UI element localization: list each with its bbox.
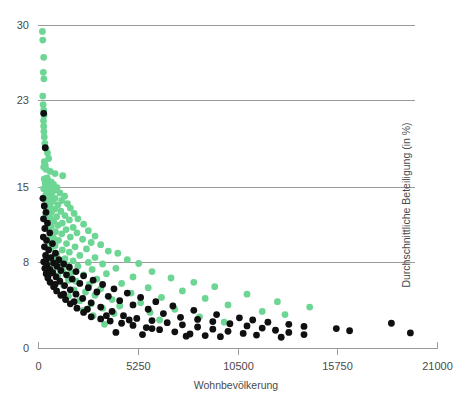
data-point — [97, 241, 104, 248]
data-point — [202, 295, 209, 302]
data-point — [74, 305, 81, 312]
data-point — [39, 93, 46, 100]
data-point — [73, 268, 80, 275]
data-point — [43, 237, 50, 244]
data-point — [74, 229, 81, 236]
data-point — [57, 267, 64, 274]
data-point — [259, 325, 266, 332]
plot-canvas: 0815233005250105001575021000 — [0, 0, 467, 416]
data-point — [69, 276, 76, 283]
data-point — [278, 334, 285, 341]
data-point — [114, 250, 121, 257]
data-point — [61, 282, 68, 289]
data-point — [43, 209, 50, 216]
data-point — [179, 288, 186, 295]
data-point — [66, 249, 73, 256]
data-point — [133, 315, 140, 322]
data-point — [58, 230, 65, 237]
data-point — [282, 311, 289, 318]
data-point — [79, 236, 86, 243]
data-point — [194, 316, 201, 323]
data-point — [55, 222, 62, 229]
data-point — [135, 260, 142, 267]
data-point — [149, 317, 156, 324]
data-point — [225, 302, 232, 309]
data-point — [83, 246, 90, 253]
data-point — [170, 303, 177, 310]
data-point — [70, 257, 77, 264]
data-point — [60, 291, 67, 298]
data-point — [137, 294, 144, 301]
data-point — [80, 221, 87, 228]
data-point — [99, 281, 106, 288]
data-point — [164, 319, 171, 326]
data-point — [79, 295, 86, 302]
y-tick-label: 15 — [17, 181, 29, 193]
data-point — [209, 326, 216, 333]
data-point — [105, 293, 112, 300]
data-point — [40, 69, 47, 76]
data-point — [149, 325, 156, 332]
data-point — [46, 270, 53, 277]
data-point — [253, 332, 260, 339]
data-point — [73, 291, 80, 298]
data-point — [285, 321, 292, 328]
data-point — [139, 331, 146, 338]
data-point — [52, 281, 59, 288]
data-point — [217, 333, 224, 340]
data-point — [149, 268, 156, 275]
data-point — [63, 240, 70, 247]
data-point — [194, 324, 201, 331]
data-point — [49, 240, 56, 247]
data-point — [179, 321, 186, 328]
x-tick-label: 21000 — [422, 360, 453, 372]
data-point — [41, 202, 48, 209]
data-point — [156, 326, 163, 333]
data-point — [111, 285, 118, 292]
data-point — [59, 247, 66, 254]
data-point — [76, 252, 83, 259]
data-point — [249, 317, 256, 324]
data-point — [301, 331, 308, 338]
data-point — [407, 330, 414, 337]
data-point — [130, 302, 137, 309]
data-point — [85, 284, 92, 291]
data-point — [158, 294, 165, 301]
data-point — [40, 75, 47, 82]
data-point — [160, 310, 167, 317]
data-point — [88, 239, 95, 246]
data-point — [183, 333, 190, 340]
data-point — [99, 261, 106, 268]
y-tick-label: 30 — [17, 19, 29, 31]
data-point — [39, 28, 46, 35]
data-point — [285, 329, 292, 336]
data-point — [85, 259, 92, 266]
data-point — [90, 277, 97, 284]
data-point — [126, 317, 133, 324]
data-point — [113, 329, 120, 336]
x-tick-label: 0 — [35, 360, 41, 372]
data-point — [236, 314, 243, 321]
data-point — [40, 54, 47, 61]
data-point — [177, 314, 184, 321]
data-point — [240, 330, 247, 337]
data-point — [88, 299, 95, 306]
data-point — [202, 332, 209, 339]
data-point — [72, 243, 79, 250]
data-point — [190, 307, 197, 314]
data-point — [67, 286, 74, 293]
data-point — [41, 134, 48, 141]
data-point — [272, 327, 279, 334]
y-tick-label: 8 — [23, 256, 29, 268]
data-point — [105, 248, 112, 255]
data-point — [71, 298, 78, 305]
data-point — [80, 272, 87, 279]
data-point — [40, 195, 47, 202]
data-point — [211, 283, 218, 290]
data-point — [94, 289, 101, 296]
data-point — [84, 306, 91, 313]
data-point — [75, 215, 82, 222]
data-point — [63, 271, 70, 278]
data-point — [40, 110, 47, 117]
data-point — [124, 256, 131, 263]
